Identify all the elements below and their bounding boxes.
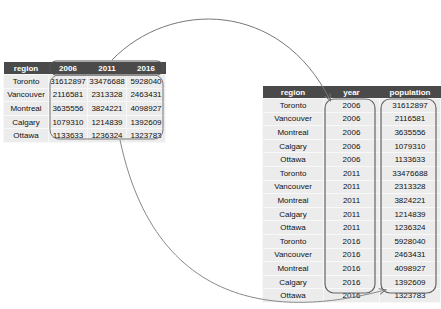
year-column-outline bbox=[325, 99, 375, 293]
population-column-outline bbox=[381, 99, 436, 293]
arrow-values-icon bbox=[120, 140, 385, 302]
arrow-years-icon bbox=[112, 19, 330, 100]
annotation-overlay bbox=[0, 0, 441, 309]
wide-values-outline bbox=[50, 75, 163, 139]
wide-header-outline bbox=[50, 61, 163, 75]
